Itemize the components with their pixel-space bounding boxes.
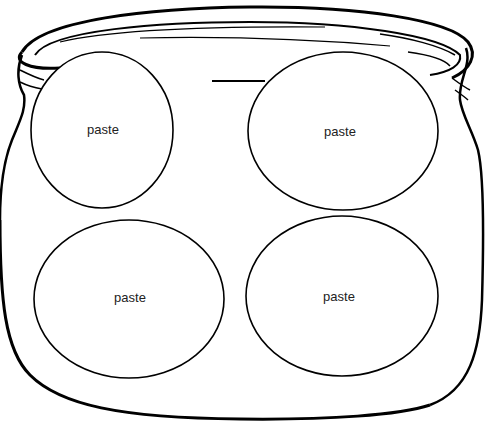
oval-label-1: paste	[87, 122, 119, 137]
oval-label-4: paste	[323, 289, 355, 304]
jar-worksheet: paste paste paste paste	[0, 0, 485, 425]
jar-outline-drawing	[0, 0, 485, 425]
oval-label-2: paste	[324, 124, 356, 139]
oval-label-3: paste	[114, 290, 146, 305]
